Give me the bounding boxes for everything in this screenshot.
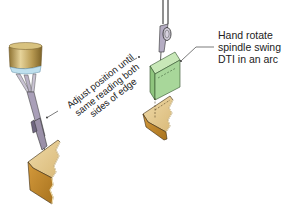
left-probe-holder: [16, 74, 48, 158]
dti-swing-annotation: Hand rotate spindle swing DTI in an arc: [218, 29, 281, 65]
left-spindle: [9, 43, 42, 75]
right-spindle: [163, 0, 168, 24]
right-leader-line: [180, 47, 214, 62]
right-workpiece: [143, 96, 173, 140]
annotation-line: spindle swing: [218, 41, 281, 53]
annotation-line: Hand rotate: [218, 29, 281, 41]
left-workpiece: [28, 140, 60, 204]
annotation-line: DTI in an arc: [218, 53, 281, 65]
right-green-block: [150, 52, 180, 100]
